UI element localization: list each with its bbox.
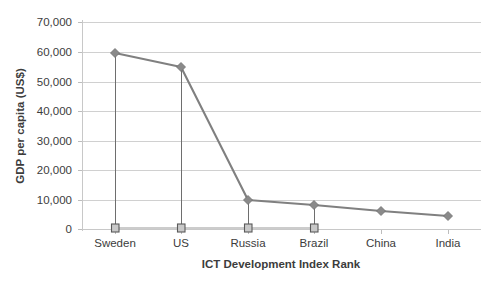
xtick-label-russia: Russia [230, 237, 266, 249]
marker-diamond-russia [244, 196, 253, 205]
ytick-label-10000: 10,000 [37, 194, 72, 206]
marker-square-russia [245, 224, 253, 232]
line-chart: 70,000 60,000 50,000 40,000 30,000 20,00… [0, 0, 489, 282]
marker-diamond-china [377, 207, 386, 216]
ytick-label-50000: 50,000 [37, 76, 72, 88]
ytick-label-40000: 40,000 [37, 105, 72, 117]
xtick-label-sweden: Sweden [94, 237, 136, 249]
series-gdp-markers [111, 49, 453, 221]
xtick-label-brazil: Brazil [300, 237, 329, 249]
gridlines [82, 23, 481, 230]
xtick-label-china: China [366, 237, 397, 249]
marker-square-sweden [112, 224, 120, 232]
x-axis-title: ICT Development Index Rank [202, 258, 361, 270]
y-tick-labels: 70,000 60,000 50,000 40,000 30,000 20,00… [37, 16, 72, 235]
xtick-label-india: India [436, 237, 462, 249]
x-axis-ticks [116, 230, 449, 235]
marker-square-us [178, 224, 186, 232]
y-axis [78, 20, 83, 231]
x-tick-labels: Sweden US Russia Brazil China India [94, 237, 461, 249]
marker-square-brazil [311, 224, 319, 232]
ytick-label-0: 0 [66, 223, 72, 235]
ytick-label-30000: 30,000 [37, 135, 72, 147]
marker-diamond-brazil [310, 201, 319, 210]
marker-diamond-india [444, 212, 453, 221]
ytick-label-70000: 70,000 [37, 16, 72, 28]
ytick-label-60000: 60,000 [37, 46, 72, 58]
marker-diamond-sweden [111, 49, 120, 58]
y-axis-title: GDP per capita (US$) [14, 68, 26, 184]
ytick-label-20000: 20,000 [37, 164, 72, 176]
marker-diamond-us [177, 63, 186, 72]
series-gdp-per-capita-line [115, 53, 448, 216]
chart-container: 70,000 60,000 50,000 40,000 30,000 20,00… [0, 0, 489, 282]
xtick-label-us: US [173, 237, 189, 249]
